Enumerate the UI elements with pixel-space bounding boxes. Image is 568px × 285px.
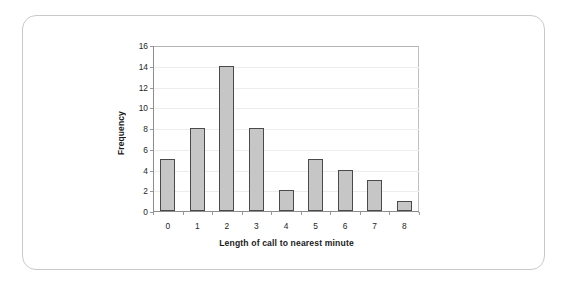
bar [397,201,412,211]
y-tick-mark [150,108,153,109]
y-tick-label: 16 [139,42,148,50]
x-tick-mark [183,212,184,215]
x-tick-mark [330,212,331,215]
x-tick-label: 3 [254,222,259,230]
y-tick-label: 14 [139,63,148,71]
gridline [154,108,419,109]
x-tick-mark [419,212,420,215]
bar [219,66,234,211]
y-axis-title: Frequency [113,98,129,168]
x-tick-mark [212,212,213,215]
x-tick-mark [153,212,154,215]
bar [160,159,175,211]
y-tick-label: 4 [143,166,148,174]
x-tick-label: 1 [195,222,200,230]
y-tick-label: 6 [143,146,148,154]
x-tick-label: 0 [165,222,170,230]
bar [338,170,353,212]
y-tick-label: 10 [139,104,148,112]
x-axis-title: Length of call to nearest minute [153,238,420,248]
bar [190,128,205,211]
x-tick-label: 4 [284,222,289,230]
bar [308,159,323,211]
x-tick-mark [301,212,302,215]
y-tick-label: 0 [143,208,148,216]
y-tick-label: 12 [139,83,148,91]
y-tick-mark [150,191,153,192]
y-tick-mark [150,67,153,68]
x-tick-label: 5 [313,222,318,230]
x-tick-mark [271,212,272,215]
x-tick-label: 6 [343,222,348,230]
y-tick-mark [150,46,153,47]
y-tick-mark [150,171,153,172]
x-tick-mark [242,212,243,215]
x-tick-label: 8 [402,222,407,230]
bar [249,128,264,211]
x-axis-line [153,211,419,212]
x-tick-label: 2 [225,222,230,230]
y-tick-mark [150,150,153,151]
bar [367,180,382,211]
x-tick-mark [360,212,361,215]
y-tick-mark [150,88,153,89]
y-tick-label: 2 [143,187,148,195]
plot-area: 0246810121416 012345678 [153,46,419,212]
gridline [154,67,419,68]
y-tick-mark [150,129,153,130]
y-tick-label: 8 [143,125,148,133]
gridline [154,88,419,89]
x-tick-label: 7 [372,222,377,230]
histogram-chart: Frequency 0246810121416 012345678 Length… [0,0,568,285]
bar [279,190,294,211]
x-tick-mark [389,212,390,215]
plot-border-top [153,46,419,47]
